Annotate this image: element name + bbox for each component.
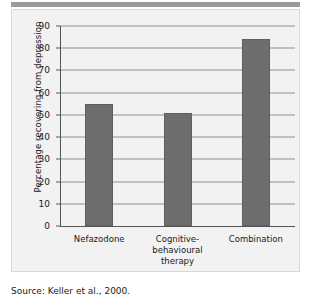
figure-container: Percentage recovering from depression 01…	[0, 0, 319, 306]
x-category-label: Cognitive- behavioural therapy	[138, 234, 216, 267]
y-tick-label: 10	[24, 199, 50, 209]
x-category-label: Nefazodone	[60, 234, 138, 245]
y-tick-label: 80	[24, 43, 50, 53]
y-tick-label: 50	[24, 110, 50, 120]
bar	[242, 39, 270, 226]
x-category-label: Combination	[217, 234, 295, 245]
bar	[164, 113, 192, 226]
y-tick-label: 20	[24, 177, 50, 187]
y-tick-label: 0	[24, 221, 50, 231]
bar	[85, 104, 113, 226]
y-tick-label: 70	[24, 65, 50, 75]
y-tick-label: 90	[24, 21, 50, 31]
x-axis-line	[60, 226, 295, 227]
y-tick-label: 30	[24, 154, 50, 164]
source-caption: Source: Keller et al., 2000.	[11, 286, 130, 296]
y-tick-label: 40	[24, 132, 50, 142]
y-axis-line	[60, 26, 61, 226]
y-tick-label: 60	[24, 88, 50, 98]
chart-panel: Percentage recovering from depression 01…	[11, 9, 300, 272]
top-rule-divider	[11, 2, 300, 7]
plot-area: Percentage recovering from depression 01…	[12, 10, 299, 271]
gridline	[60, 26, 295, 27]
